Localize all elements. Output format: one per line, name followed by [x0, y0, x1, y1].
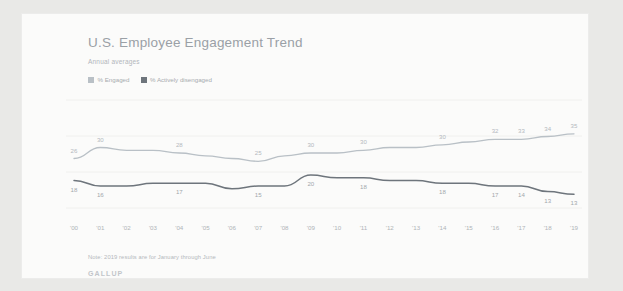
- data-point-label: 20: [307, 180, 314, 187]
- data-point-label: 30: [307, 141, 314, 148]
- data-point-label: 30: [439, 133, 446, 140]
- data-point-label: 30: [360, 138, 367, 145]
- x-axis-tick-label: '12: [386, 224, 394, 231]
- x-axis-tick-label: '01: [96, 224, 104, 231]
- x-axis-tick-label: '16: [491, 224, 499, 231]
- x-axis-tick-label: '03: [149, 224, 157, 231]
- x-axis-tick-label: '11: [360, 224, 368, 231]
- series-line: [74, 134, 574, 162]
- data-point-label: 30: [97, 136, 104, 143]
- legend-swatch-icon: [141, 77, 147, 83]
- data-point-label: 15: [255, 191, 262, 198]
- data-point-label: 25: [255, 149, 262, 156]
- x-axis-tick-labels: '00'01'02'03'04'05'06'07'08'09'10'11'12'…: [66, 224, 582, 238]
- x-axis-tick-label: '07: [254, 224, 262, 231]
- data-point-label: 14: [518, 191, 525, 198]
- data-point-label: 17: [492, 191, 499, 198]
- x-axis-tick-label: '02: [123, 224, 131, 231]
- chart-footnote: Note: 2019 results are for January throu…: [88, 254, 216, 260]
- x-axis-tick-label: '06: [228, 224, 236, 231]
- chart-card: U.S. Employee Engagement Trend Annual av…: [22, 14, 588, 278]
- data-point-label: 17: [176, 188, 183, 195]
- x-axis-tick-label: '18: [544, 224, 552, 231]
- legend-swatch-icon: [88, 77, 94, 83]
- data-point-label: 18: [439, 188, 446, 195]
- gallup-logo: GALLUP: [88, 270, 123, 277]
- chart-legend: % Engaged % Actively disengaged: [88, 76, 212, 83]
- data-point-label: 13: [571, 199, 578, 206]
- x-axis-tick-label: '13: [412, 224, 420, 231]
- x-axis-tick-label: '08: [280, 224, 288, 231]
- x-axis-tick-label: '15: [465, 224, 473, 231]
- x-axis-tick-label: '19: [570, 224, 578, 231]
- data-point-label: 16: [97, 191, 104, 198]
- data-point-label: 28: [176, 141, 183, 148]
- x-axis-tick-label: '10: [333, 224, 341, 231]
- legend-label-actively-disengaged: % Actively disengaged: [150, 76, 212, 83]
- x-axis-tick-label: '17: [517, 224, 525, 231]
- data-point-label: 13: [544, 197, 551, 204]
- x-axis-tick-label: '04: [175, 224, 183, 231]
- series-line: [74, 175, 574, 194]
- chart-plot-area: 2630282530303032333435181617152018181714…: [66, 94, 582, 222]
- legend-item-engaged: % Engaged: [88, 76, 130, 83]
- legend-item-actively-disengaged: % Actively disengaged: [141, 76, 212, 83]
- x-axis-tick-label: '09: [307, 224, 315, 231]
- data-point-label: 33: [518, 127, 525, 134]
- x-axis-tick-label: '14: [438, 224, 446, 231]
- data-point-label: 32: [492, 127, 499, 134]
- x-axis-tick-label: '00: [70, 224, 78, 231]
- data-point-label: 18: [71, 186, 78, 193]
- data-point-label: 26: [71, 147, 78, 154]
- x-axis-tick-label: '05: [202, 224, 210, 231]
- data-point-label: 18: [360, 183, 367, 190]
- legend-label-engaged: % Engaged: [98, 76, 130, 83]
- chart-subtitle: Annual averages: [88, 58, 140, 65]
- page-title: U.S. Employee Engagement Trend: [88, 35, 303, 50]
- line-chart-svg: 2630282530303032333435181617152018181714…: [66, 94, 582, 222]
- data-point-label: 34: [544, 125, 551, 132]
- data-point-label: 35: [571, 122, 578, 129]
